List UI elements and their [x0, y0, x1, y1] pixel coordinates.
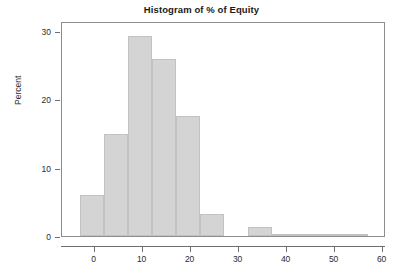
y-tick-mark — [55, 169, 60, 170]
x-tick-label: 40 — [271, 254, 301, 264]
x-tick-label: 20 — [175, 254, 205, 264]
histogram-bar — [296, 234, 320, 236]
histogram-bar — [320, 234, 344, 236]
y-axis-label: Percent — [13, 76, 23, 105]
histogram-bar — [176, 116, 200, 236]
x-tick-mark — [142, 247, 143, 252]
y-tick-mark — [55, 237, 60, 238]
histogram-bar — [152, 59, 176, 236]
x-tick-mark — [94, 247, 95, 252]
y-tick-label: 10 — [25, 164, 51, 174]
x-axis-line — [61, 246, 385, 247]
histogram-bar — [248, 227, 272, 236]
y-tick-label: 20 — [25, 95, 51, 105]
histogram-bar — [272, 234, 296, 236]
x-tick-mark — [382, 247, 383, 252]
x-tick-label: 50 — [319, 254, 349, 264]
histogram-bar — [104, 134, 128, 236]
histogram-bar — [128, 36, 152, 236]
histogram-bar — [344, 234, 368, 236]
x-tick-label: 10 — [127, 254, 157, 264]
histogram-bars — [62, 23, 384, 236]
histogram-bar — [200, 214, 224, 236]
x-tick-label: 0 — [79, 254, 109, 264]
y-tick-label: 30 — [25, 27, 51, 37]
x-tick-label: 30 — [223, 254, 253, 264]
x-tick-mark — [334, 247, 335, 252]
x-tick-mark — [286, 247, 287, 252]
y-tick-mark — [55, 32, 60, 33]
y-tick-mark — [55, 100, 60, 101]
x-tick-mark — [190, 247, 191, 252]
x-tick-mark — [238, 247, 239, 252]
x-tick-label: 60 — [367, 254, 397, 264]
y-tick-label: 0 — [25, 232, 51, 242]
chart-title: Histogram of % of Equity — [0, 4, 403, 15]
histogram-bar — [80, 195, 104, 236]
plot-area — [61, 22, 385, 237]
histogram-figure: Histogram of % of Equity Percent 0102030… — [0, 0, 403, 268]
